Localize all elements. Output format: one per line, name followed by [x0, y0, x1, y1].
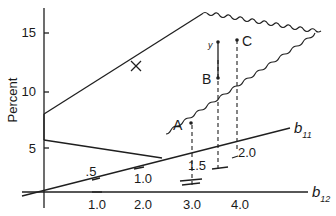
y-axis-label: Percent — [5, 77, 20, 122]
point-y — [216, 40, 220, 44]
b12-tick-label-4: 4.0 — [231, 197, 249, 212]
point-label-a: A — [173, 117, 183, 133]
b11-axis — [22, 128, 290, 196]
diagram-figure: 15 10 5 Percent 1.0 2.0 3.0 4.0 b12 .5 1… — [0, 0, 336, 216]
b12-tick-label-3: 3.0 — [183, 197, 201, 212]
y-tick-label-5: 5 — [29, 141, 36, 156]
point-label-b: B — [202, 71, 211, 87]
b12-tick-label-1: 1.0 — [88, 197, 106, 212]
b11-tick-label-10: 1.0 — [134, 171, 152, 186]
b12-axis-label: b12 — [312, 183, 330, 204]
point-b — [216, 76, 220, 80]
b11-tick-label-05: .5 — [86, 164, 97, 179]
offset-mark-1 — [180, 179, 202, 181]
point-c — [235, 38, 239, 42]
offset-mark-2 — [182, 183, 200, 185]
wiggly-top-edge — [202, 13, 321, 33]
point-a — [189, 121, 193, 125]
b11-axis-label: b11 — [294, 119, 312, 140]
cross-marker-icon — [131, 61, 141, 71]
b12-tick-label-2: 2.0 — [134, 197, 152, 212]
b11-tick-label-20: 2.0 — [238, 145, 256, 160]
offset-mark-3 — [212, 167, 228, 169]
y-tick-label-15: 15 — [22, 25, 36, 40]
lower-boundary-line — [44, 140, 162, 158]
point-label-c: C — [242, 33, 252, 49]
wiggly-right-edge — [166, 33, 315, 134]
y-tick-label-10: 10 — [22, 84, 36, 99]
upper-boundary-line — [44, 14, 202, 114]
b11-tick-label-15: 1.5 — [188, 158, 206, 173]
point-label-y: y — [207, 40, 213, 50]
